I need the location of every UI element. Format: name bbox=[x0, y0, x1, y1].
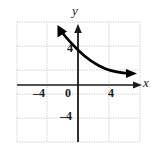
tick-label-y-negative-4: –4 bbox=[60, 110, 72, 122]
coordinate-plane bbox=[0, 0, 156, 152]
tick-label-x-negative-4: –4 bbox=[33, 87, 45, 99]
axis-y-arrowhead bbox=[74, 24, 82, 33]
tick-label-y-positive-4: 4 bbox=[67, 42, 73, 54]
y-axis-label: y bbox=[72, 4, 78, 17]
axis-x-arrowhead bbox=[133, 81, 142, 88]
graph-figure: y x –4 0 4 4 –4 bbox=[0, 0, 156, 152]
axis-y bbox=[74, 24, 82, 142]
tick-label-origin: 0 bbox=[65, 87, 71, 99]
x-axis-label: x bbox=[143, 76, 149, 89]
tick-label-x-positive-4: 4 bbox=[108, 87, 114, 99]
